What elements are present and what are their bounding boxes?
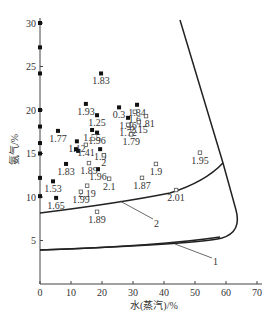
point-label: 1.96: [88, 135, 106, 146]
point-label: 1.25: [88, 117, 106, 128]
point-label: 1.77: [49, 133, 67, 144]
point-label: 1.9: [150, 166, 163, 177]
x-tick-label: 20: [97, 287, 107, 298]
x-tick-label: 0: [38, 287, 43, 298]
point-label: 1.53: [44, 183, 62, 194]
point-label: 1.79: [122, 136, 140, 147]
point-label: 2.01: [167, 192, 185, 203]
scatter-chart: 010203040506070 51015202530 2 1 1.831.93…: [0, 0, 279, 322]
point-label: 1.87: [133, 180, 151, 191]
filled-square-marker: [38, 21, 42, 25]
point-label: 1.93: [77, 106, 95, 117]
y-tick-label: 25: [26, 61, 36, 72]
data-points: 1.831.931.250.31.841.461.771.551.961.121…: [38, 21, 209, 225]
filled-square-marker: [38, 152, 42, 156]
point-label: 1.95: [191, 155, 209, 166]
curve-1: [40, 237, 220, 250]
y-tick-label: 30: [26, 18, 36, 29]
curve-1-label: 1: [213, 256, 218, 267]
y-tick-label: 15: [26, 148, 36, 159]
curve-2-leader: [120, 201, 153, 219]
point-label: 1.83: [92, 75, 110, 86]
x-tick-label: 10: [66, 287, 76, 298]
filled-square-marker: [38, 71, 42, 75]
filled-square-marker: [38, 141, 42, 145]
point-label: 1.41: [77, 147, 95, 158]
point-label: 1.83: [57, 166, 75, 177]
point-label: 2.1: [103, 181, 116, 192]
point-label: 2: [101, 157, 106, 168]
curve-1-leader: [175, 244, 212, 258]
x-tick-label: 70: [252, 287, 262, 298]
filled-square-marker: [38, 176, 42, 180]
x-axis-title: 水(蒸汽)/%: [130, 299, 178, 312]
y-axis-title: 氨气/%: [8, 134, 20, 165]
x-tick-label: 60: [221, 287, 231, 298]
x-tick-label: 30: [128, 287, 138, 298]
point-label: 1.99: [72, 194, 90, 205]
filled-square-marker: [38, 108, 42, 112]
x-tick-label: 50: [190, 287, 200, 298]
x-tick-label: 40: [159, 287, 169, 298]
y-tick-label: 5: [31, 235, 36, 246]
y-tick-label: 10: [26, 192, 36, 203]
curve-2-label: 2: [154, 218, 159, 229]
filled-square-marker: [38, 194, 42, 198]
y-tick-label: 20: [26, 105, 36, 116]
filled-square-marker: [38, 45, 42, 49]
point-label: 1.89: [88, 214, 106, 225]
point-label: 1.89: [80, 165, 98, 176]
filled-square-marker: [38, 125, 42, 129]
point-label: 1.65: [47, 200, 65, 211]
point-label: 0.3: [113, 109, 126, 120]
